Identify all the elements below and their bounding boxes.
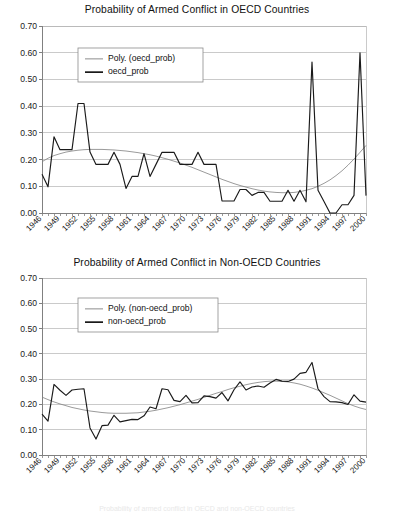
y-axis-tick-label: 0.70 — [20, 21, 37, 31]
legend-label-data-series: oecd_prob — [108, 66, 149, 76]
chart-non-oecd: Probability of Armed Conflict in Non-OEC… — [0, 256, 394, 512]
x-axis-tick-label: 1952 — [60, 456, 79, 475]
x-axis-tick-label: 1991 — [294, 456, 313, 475]
y-axis-tick-label: 0.70 — [20, 273, 37, 283]
x-axis-tick-label: 1967 — [150, 214, 169, 233]
x-axis-tick-label: 1985 — [258, 214, 277, 233]
legend-label-trendline: Poly. (non-oecd_prob) — [108, 303, 193, 313]
x-axis-tick-label: 1967 — [150, 456, 169, 475]
x-axis-tick-label: 1955 — [78, 214, 97, 233]
x-axis-tick-label: 1949 — [42, 214, 61, 233]
y-axis-tick-label: 0.40 — [20, 101, 37, 111]
x-axis-tick-label: 1964 — [132, 456, 151, 475]
x-axis-tick-label: 1982 — [240, 456, 259, 475]
y-axis-tick-label: 0.50 — [20, 324, 37, 334]
y-axis-tick-label: 0.10 — [20, 425, 37, 435]
y-axis-tick-label: 0.30 — [20, 374, 37, 384]
y-axis-tick-label: 0.60 — [20, 48, 37, 58]
y-axis-tick-label: 0.20 — [20, 155, 37, 165]
x-axis-tick-label: 1958 — [96, 456, 115, 475]
x-axis-tick-label: 1970 — [168, 456, 187, 475]
x-axis-tick-label: 1949 — [42, 456, 61, 475]
chart-oecd: Probability of Armed Conflict in OECD Co… — [0, 0, 394, 256]
y-axis-tick-label: 0.60 — [20, 298, 37, 308]
y-axis-tick-label: 0.30 — [20, 128, 37, 138]
x-axis-tick-label: 1994 — [312, 456, 331, 475]
x-axis-tick-label: 1976 — [204, 456, 223, 475]
x-axis-tick-label: 1964 — [132, 214, 151, 233]
x-axis-tick-label: 1982 — [240, 214, 259, 233]
plot-area-oecd: 0.000.100.200.300.400.500.600.7019461949… — [0, 0, 394, 256]
x-axis-tick-label: 1973 — [186, 214, 205, 233]
x-axis-tick-label: 1997 — [330, 214, 349, 233]
x-axis-tick-label: 1979 — [222, 456, 241, 475]
x-axis-tick-label: 1955 — [78, 456, 97, 475]
y-axis-tick-label: 0.40 — [20, 349, 37, 359]
chart-page: Probability of Armed Conflict in OECD Co… — [0, 0, 394, 512]
plot-area-non-oecd: 0.000.100.200.300.400.500.600.7019461949… — [0, 256, 394, 512]
footer-note: Probability of armed conflict in OECD an… — [0, 505, 394, 512]
y-axis-tick-label: 0.10 — [20, 181, 37, 191]
data-series-line — [42, 362, 366, 439]
x-axis-tick-label: 1994 — [312, 214, 331, 233]
y-axis-tick-label: 0.50 — [20, 74, 37, 84]
x-axis-tick-label: 1991 — [294, 214, 313, 233]
x-axis-tick-label: 1979 — [222, 214, 241, 233]
x-axis-tick-label: 1988 — [276, 456, 295, 475]
legend-label-trendline: Poly. (oecd_prob) — [108, 53, 175, 63]
x-axis-tick-label: 1976 — [204, 214, 223, 233]
x-axis-tick-label: 1961 — [114, 456, 133, 475]
x-axis-tick-label: 1973 — [186, 456, 205, 475]
y-axis-tick-label: 0.20 — [20, 399, 37, 409]
x-axis-tick-label: 1988 — [276, 214, 295, 233]
x-axis-tick-label: 2000 — [348, 456, 367, 475]
x-axis-tick-label: 1958 — [96, 214, 115, 233]
x-axis-tick-label: 1970 — [168, 214, 187, 233]
x-axis-tick-label: 1997 — [330, 456, 349, 475]
legend-label-data-series: non-oecd_prob — [108, 316, 166, 326]
x-axis-tick-label: 1952 — [60, 214, 79, 233]
x-axis-tick-label: 1961 — [114, 214, 133, 233]
x-axis-tick-label: 2000 — [348, 214, 367, 233]
x-axis-tick-label: 1985 — [258, 456, 277, 475]
